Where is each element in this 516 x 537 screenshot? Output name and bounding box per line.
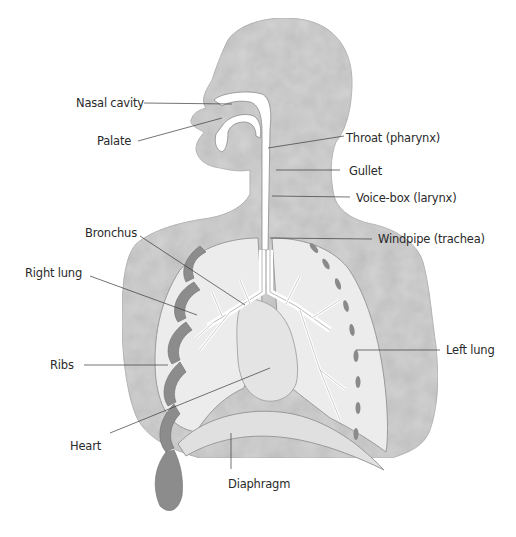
- label-throat: Throat (pharynx): [346, 131, 440, 145]
- label-bronchus: Bronchus: [85, 226, 137, 240]
- label-left-lung: Left lung: [446, 343, 495, 357]
- label-ribs: Ribs: [50, 358, 74, 372]
- respiratory-system-diagram: ···· Nasal cavity Palate Throat (pharynx…: [0, 0, 516, 537]
- label-nasal-cavity: Nasal cavity: [76, 96, 144, 110]
- label-voice-box: Voice-box (larynx): [356, 191, 456, 205]
- cropped-header-text: ····: [0, 0, 18, 7]
- label-diaphragm: Diaphragm: [228, 477, 290, 491]
- label-palate: Palate: [97, 134, 131, 148]
- label-windpipe: Windpipe (trachea): [378, 232, 485, 246]
- label-gullet: Gullet: [349, 164, 382, 178]
- label-right-lung: Right lung: [25, 266, 82, 280]
- label-heart: Heart: [70, 439, 101, 453]
